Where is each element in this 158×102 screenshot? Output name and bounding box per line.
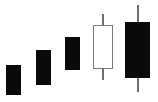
candlestick-chart (0, 0, 158, 102)
candlestick-body-2 (36, 50, 51, 85)
candlestick-body-3 (65, 37, 80, 70)
candlestick-body-5 (125, 22, 150, 78)
candlestick-body-1 (6, 65, 21, 95)
candlestick-body-4 (93, 25, 113, 69)
